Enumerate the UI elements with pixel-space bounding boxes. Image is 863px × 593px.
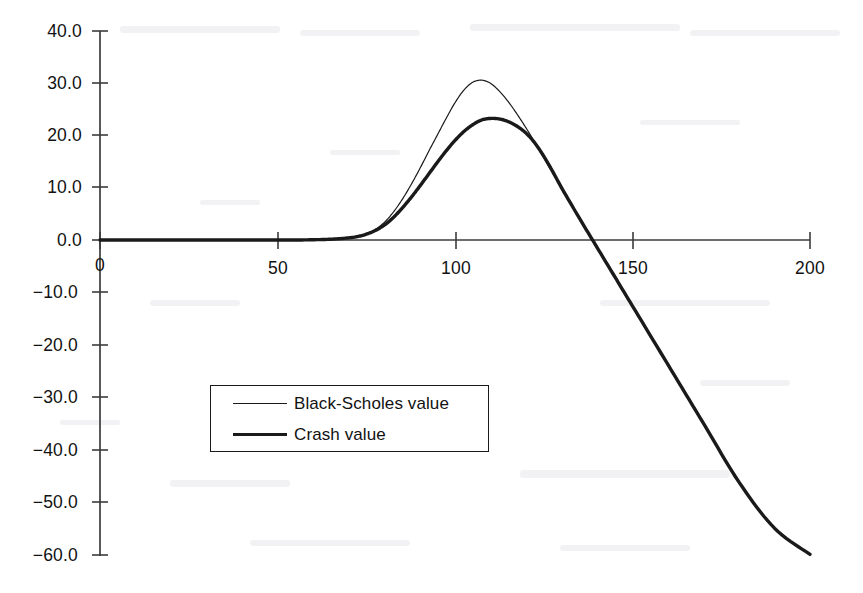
- y-tick-label: −60.0: [0, 545, 78, 566]
- series-line-black-scholes: [100, 80, 810, 554]
- legend-swatch-thin-line-icon: [233, 403, 287, 404]
- plot-area: [0, 0, 863, 593]
- y-tick-label: 30.0: [4, 73, 82, 94]
- legend-label: Crash value: [294, 425, 386, 445]
- y-tick-label: −50.0: [0, 492, 78, 513]
- y-tick-label: −20.0: [0, 335, 78, 356]
- x-tick-label: 200: [780, 258, 840, 279]
- chart-legend: Black-Scholes value Crash value: [210, 385, 489, 452]
- x-tick-label: 100: [426, 258, 486, 279]
- legend-entry-crash: Crash value: [211, 418, 386, 451]
- x-tick-label-origin: 0: [88, 255, 112, 276]
- y-tick-label: 0.0: [4, 230, 82, 251]
- legend-label: Black-Scholes value: [294, 394, 449, 414]
- chart-figure: 40.0 30.0 20.0 10.0 0.0 −10.0 −20.0 −30.…: [0, 0, 863, 593]
- y-tick-label: 20.0: [4, 125, 82, 146]
- y-tick-label: 10.0: [4, 177, 82, 198]
- x-tick-label: 50: [248, 258, 308, 279]
- y-tick-label: −10.0: [0, 282, 78, 303]
- legend-entry-black-scholes: Black-Scholes value: [211, 387, 449, 420]
- legend-swatch-thick-line-icon: [233, 433, 287, 436]
- series-line-crash: [100, 118, 810, 554]
- y-tick-label: −30.0: [0, 387, 78, 408]
- x-tick-label: 150: [603, 258, 663, 279]
- y-tick-label: −40.0: [0, 440, 78, 461]
- y-tick-label: 40.0: [4, 21, 82, 42]
